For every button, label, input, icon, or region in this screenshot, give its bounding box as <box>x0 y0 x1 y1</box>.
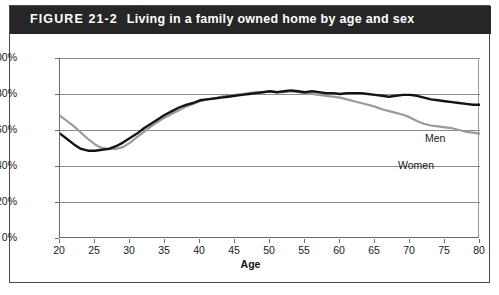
x-tick-label: 55 <box>289 244 319 256</box>
plot-area: Men Women <box>59 58 479 238</box>
x-tick-mark <box>269 239 270 243</box>
x-tick-mark <box>164 239 165 243</box>
y-tick-label: 40% <box>0 159 17 171</box>
x-tick-label: 75 <box>429 244 459 256</box>
series-line-women <box>60 91 480 149</box>
x-tick-mark <box>304 239 305 243</box>
y-tick-label: 60% <box>0 123 17 135</box>
x-tick-label: 65 <box>359 244 389 256</box>
series-label-women: Women <box>398 159 434 171</box>
chart-region: 0%20%40%60%80%100% 202530354045505560657… <box>10 34 491 284</box>
figure-caption: Living in a family owned home by age and… <box>127 12 415 26</box>
x-tick-label: 25 <box>79 244 109 256</box>
x-tick-mark <box>199 239 200 243</box>
x-tick-label: 20 <box>44 244 74 256</box>
x-tick-mark <box>94 239 95 243</box>
x-tick-label: 80 <box>464 244 494 256</box>
y-tick-label: 20% <box>0 195 17 207</box>
x-tick-label: 35 <box>149 244 179 256</box>
figure-header-bar: FIGURE 21-2Living in a family owned home… <box>10 6 491 34</box>
x-tick-mark <box>234 239 235 243</box>
x-tick-label: 30 <box>114 244 144 256</box>
figure-number: FIGURE 21-2 <box>30 12 118 26</box>
y-tick-label: 0% <box>0 231 17 243</box>
x-tick-label: 60 <box>324 244 354 256</box>
x-tick-label: 50 <box>254 244 284 256</box>
series-label-men: Men <box>425 132 445 144</box>
series-lines <box>60 58 480 238</box>
figure-title: FIGURE 21-2Living in a family owned home… <box>30 12 414 26</box>
x-axis-title: Age <box>10 258 491 270</box>
y-tick-label: 100% <box>0 51 17 63</box>
x-tick-mark <box>444 239 445 243</box>
x-tick-label: 70 <box>394 244 424 256</box>
x-tick-mark <box>409 239 410 243</box>
x-tick-label: 45 <box>219 244 249 256</box>
y-tick-label: 80% <box>0 87 17 99</box>
x-tick-label: 40 <box>184 244 214 256</box>
x-tick-mark <box>129 239 130 243</box>
figure-container: FIGURE 21-2Living in a family owned home… <box>9 5 490 283</box>
x-tick-mark <box>479 239 480 243</box>
x-tick-mark <box>59 239 60 243</box>
x-tick-mark <box>339 239 340 243</box>
x-tick-mark <box>374 239 375 243</box>
